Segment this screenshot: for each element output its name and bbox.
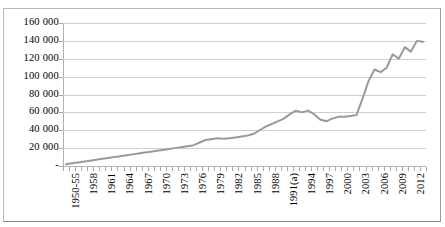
x-axis-tick: [172, 167, 173, 171]
x-axis-tick: [111, 167, 112, 171]
x-axis-label: 1982: [233, 173, 244, 194]
plot-area: [63, 23, 426, 166]
x-axis-tick: [226, 167, 227, 171]
x-axis-label: 1958: [88, 173, 99, 194]
x-axis-labels: 1950-55195819611964196719701973197619791…: [63, 173, 426, 223]
x-axis-tick: [323, 167, 324, 171]
y-axis-label: 40 000: [7, 124, 59, 134]
x-axis-tick: [281, 167, 282, 171]
x-axis-tick: [148, 167, 149, 171]
x-axis-tick: [202, 167, 203, 171]
x-axis-tick: [257, 167, 258, 171]
x-axis-label: 1994: [306, 173, 317, 194]
y-axis-label: 80 000: [7, 89, 59, 99]
x-axis-tick: [426, 167, 427, 171]
x-axis-tick: [220, 167, 221, 171]
x-axis-label: 2000: [342, 173, 353, 194]
y-axis-label: 120 000: [7, 53, 59, 63]
x-axis-tick: [329, 167, 330, 171]
x-axis-tick: [142, 167, 143, 171]
y-axis-label: 160 000: [7, 17, 59, 27]
x-axis-tick: [263, 167, 264, 171]
x-axis-tick: [105, 167, 106, 171]
x-axis-label: 2006: [379, 173, 390, 194]
x-axis-tick: [81, 167, 82, 171]
x-axis-tick: [293, 167, 294, 171]
x-axis-ticks: [63, 167, 426, 172]
x-axis-tick: [160, 167, 161, 171]
series-line: [63, 23, 426, 166]
x-axis-tick: [390, 167, 391, 171]
y-axis-label: 140 000: [7, 35, 59, 45]
x-axis-tick: [396, 167, 397, 171]
x-axis-label: 1988: [270, 173, 281, 194]
x-axis-label: 2003: [360, 173, 371, 194]
x-axis-tick: [75, 167, 76, 171]
x-axis-tick: [117, 167, 118, 171]
series-polyline: [66, 41, 423, 164]
x-axis-tick: [130, 167, 131, 171]
x-axis-label: 2012: [415, 173, 426, 194]
x-axis-label: 1970: [161, 173, 172, 194]
x-axis-label: 1985: [252, 173, 263, 194]
x-axis-tick: [269, 167, 270, 171]
x-axis-tick: [238, 167, 239, 171]
x-axis-tick: [414, 167, 415, 171]
x-axis-tick: [245, 167, 246, 171]
x-axis-tick: [299, 167, 300, 171]
x-axis-label: 1967: [143, 173, 154, 194]
x-axis-tick: [184, 167, 185, 171]
y-axis-label: 100 000: [7, 71, 59, 81]
x-axis-tick: [366, 167, 367, 171]
x-axis-label: 1976: [197, 173, 208, 194]
x-axis-tick: [341, 167, 342, 171]
x-axis-label: 1950-55: [70, 173, 81, 209]
x-axis-tick: [305, 167, 306, 171]
x-axis-tick: [372, 167, 373, 171]
x-axis-tick: [402, 167, 403, 171]
x-axis-tick: [178, 167, 179, 171]
y-axis-label: 60 000: [7, 106, 59, 116]
x-axis-label: 1997: [324, 173, 335, 194]
x-axis-tick: [124, 167, 125, 171]
x-axis-tick: [232, 167, 233, 171]
x-axis-tick: [378, 167, 379, 171]
x-axis-tick: [63, 167, 64, 171]
x-axis-label: 1991(a): [288, 173, 299, 206]
x-axis-tick: [196, 167, 197, 171]
x-axis-tick: [93, 167, 94, 171]
x-axis-label: 1961: [106, 173, 117, 194]
y-axis-labels: 160 000140 000120 000100 00080 00060 000…: [4, 9, 59, 221]
x-axis-label: 2009: [397, 173, 408, 194]
y-axis-label: -: [7, 160, 59, 170]
x-axis-tick: [311, 167, 312, 171]
chart-frame: 160 000140 000120 000100 00080 00060 000…: [3, 8, 441, 222]
x-axis-tick: [208, 167, 209, 171]
x-axis-tick: [154, 167, 155, 171]
x-axis-tick: [287, 167, 288, 171]
x-axis-tick: [347, 167, 348, 171]
x-axis-tick: [275, 167, 276, 171]
x-axis-tick: [251, 167, 252, 171]
y-axis-label: 20 000: [7, 142, 59, 152]
x-axis-tick: [408, 167, 409, 171]
x-axis-tick: [214, 167, 215, 171]
x-axis-tick: [166, 167, 167, 171]
x-axis-label: 1979: [215, 173, 226, 194]
x-axis-tick: [359, 167, 360, 171]
x-axis-tick: [420, 167, 421, 171]
x-axis-tick: [99, 167, 100, 171]
x-axis-label: 1973: [179, 173, 190, 194]
x-axis-tick: [317, 167, 318, 171]
x-axis-tick: [335, 167, 336, 171]
x-axis-tick: [136, 167, 137, 171]
x-axis-tick: [353, 167, 354, 171]
x-axis-tick: [384, 167, 385, 171]
x-axis-tick: [87, 167, 88, 171]
x-axis-tick: [69, 167, 70, 171]
x-axis-label: 1964: [124, 173, 135, 194]
x-axis-tick: [190, 167, 191, 171]
